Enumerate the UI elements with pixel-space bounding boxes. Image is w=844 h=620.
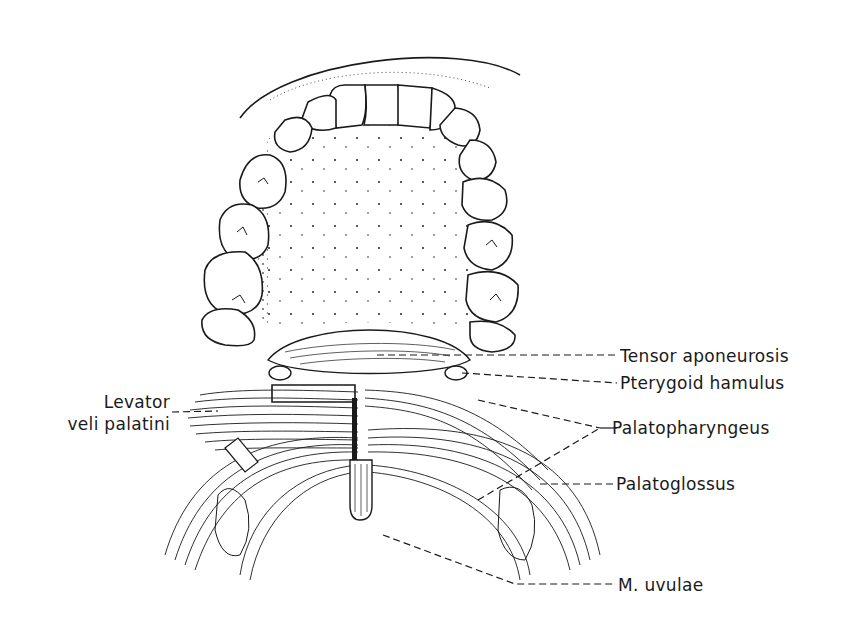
label-palatoglossus: Palatoglossus [616, 474, 735, 494]
label-palatopharyngeus: Palatopharyngeus [612, 418, 770, 438]
palatoglossus [240, 390, 548, 580]
tensor-aponeurosis [268, 330, 470, 374]
uvula [350, 398, 372, 520]
label-levator-line1: Levator [84, 392, 170, 412]
label-pterygoid-hamulus: Pterygoid hamulus [620, 373, 785, 393]
leader-palatopharyngeus-upper [478, 400, 600, 428]
leader-palatopharyngeus-lower [478, 428, 600, 500]
tonsils [215, 487, 535, 560]
palate-drawing [0, 0, 844, 620]
label-tensor-aponeurosis: Tensor aponeurosis [620, 346, 789, 366]
label-levator-line2: veli palatini [54, 414, 170, 434]
leader-pterygoid-hamulus [462, 373, 617, 383]
label-m-uvulae: M. uvulae [618, 575, 703, 595]
leader-m-uvulae [383, 535, 615, 584]
anatomy-figure [0, 0, 844, 620]
leader-lines [172, 355, 617, 584]
levator-veli-palatini [188, 390, 358, 450]
leader-levator [172, 411, 218, 412]
